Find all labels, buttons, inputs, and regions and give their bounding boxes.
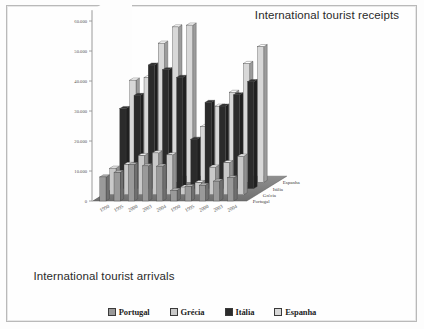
category-axis-year-label: 2003 — [213, 204, 225, 213]
chart-plot-area: 60.00050.00040.00030.00020.00010.0000199… — [0, 0, 424, 329]
legend-item-portugal[interactable]: Portugal — [108, 307, 150, 317]
legend-item-label: Itália — [236, 307, 255, 317]
bar-portugal — [114, 170, 124, 201]
bar-portugal — [128, 163, 138, 201]
category-axis-year-label: 2004 — [227, 204, 239, 213]
bar-portugal — [100, 175, 110, 201]
bar-portugal — [228, 176, 238, 201]
bar-portugal — [142, 164, 152, 201]
bar-portugal — [199, 183, 209, 201]
bar-itália — [177, 75, 187, 188]
value-axis-tick-label: 0 — [85, 199, 88, 204]
page-background: International tourist receipts Internati… — [0, 0, 424, 329]
value-axis-tick-label: 20.000 — [74, 139, 87, 144]
category-axis-year-label: 1990 — [99, 204, 111, 213]
legend-item-label: Espanha — [285, 307, 316, 317]
legend-item-label: Portugal — [119, 307, 150, 317]
legend-swatch-icon — [225, 308, 233, 316]
depth-axis-label: Portugal — [253, 199, 271, 204]
bar-portugal — [157, 164, 167, 201]
category-axis-year-label: 1995 — [184, 204, 196, 213]
legend-item-grécia[interactable]: Grécia — [170, 307, 205, 317]
category-axis-year-label: 1995 — [113, 204, 125, 213]
category-axis-year-label: 2000 — [198, 204, 210, 213]
category-axis-year-label: 2003 — [142, 204, 154, 213]
legend-swatch-icon — [274, 308, 282, 316]
chart-svg: 60.00050.00040.00030.00020.00010.0000199… — [0, 0, 424, 329]
chart-render-group: 60.00050.00040.00030.00020.00010.0000199… — [74, 0, 300, 213]
bar-portugal — [185, 184, 195, 201]
chart-legend: PortugalGréciaItáliaEspanha — [0, 307, 424, 317]
value-axis-tick-label: 30.000 — [74, 109, 87, 114]
category-axis-year-label: 2000 — [127, 204, 139, 213]
bar-itália — [248, 80, 258, 189]
depth-axis-label: Grécia — [263, 193, 277, 198]
bar-portugal — [171, 188, 181, 201]
legend-item-itália[interactable]: Itália — [225, 307, 255, 317]
legend-item-espanha[interactable]: Espanha — [274, 307, 316, 317]
category-axis-year-label: 1990 — [170, 204, 182, 213]
legend-swatch-icon — [170, 308, 178, 316]
value-axis-tick-label: 60.000 — [74, 19, 87, 24]
category-axis-year-label: 2004 — [156, 204, 168, 213]
bar-espanha — [258, 45, 268, 183]
bar-grécia — [238, 154, 248, 195]
value-axis-tick-label: 50.000 — [74, 49, 87, 54]
value-axis-tick-label: 10.000 — [74, 169, 87, 174]
bar-portugal — [213, 179, 223, 201]
depth-axis-label: Itália — [273, 187, 284, 192]
legend-swatch-icon — [108, 308, 116, 316]
depth-axis-label: Espanha — [283, 180, 301, 185]
value-axis-tick-label: 40.000 — [74, 79, 87, 84]
legend-item-label: Grécia — [181, 307, 205, 317]
